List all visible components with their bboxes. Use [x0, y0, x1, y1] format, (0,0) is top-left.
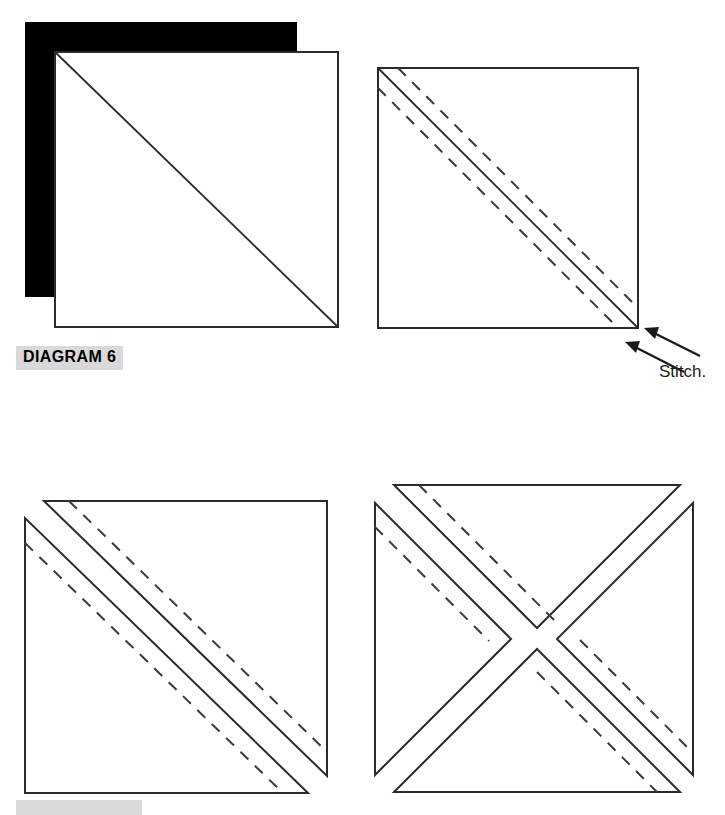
panel-top-left: [25, 22, 338, 327]
stitch-annotation-label: Stitch.: [659, 362, 706, 382]
diagram-label-next-partial: DIAGRAM 7: [16, 800, 142, 815]
diagram-label-6: DIAGRAM 6: [16, 346, 123, 370]
diagram-sheet: [0, 0, 725, 815]
